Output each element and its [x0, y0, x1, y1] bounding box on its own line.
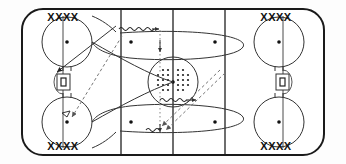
rink-svg: XXXX XXXX XXXX XXXX: [0, 0, 346, 164]
dot-neutral-bottom-right: [213, 120, 217, 124]
group-top-right: XXXX: [260, 11, 292, 23]
dot-bottom-left: [65, 120, 69, 124]
dot-neutral-top-right: [213, 40, 217, 44]
dot-top-left: [65, 40, 69, 44]
hockey-rink-diagram: XXXX XXXX XXXX XXXX: [0, 0, 346, 164]
dot-bottom-right: [277, 120, 281, 124]
group-top-left: XXXX: [47, 11, 79, 23]
dot-neutral-bottom-left: [129, 120, 133, 124]
dot-neutral-top-left: [129, 40, 133, 44]
dot-top-right: [277, 40, 281, 44]
group-bottom-right: XXXX: [260, 140, 292, 152]
group-bottom-left: XXXX: [47, 140, 79, 152]
